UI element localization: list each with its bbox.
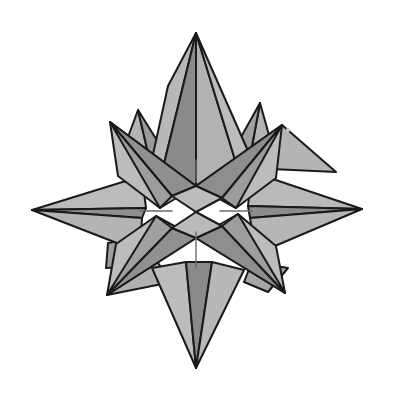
stellated-polyhedron-drawing [0, 0, 395, 401]
figure-canvas: Stellated polyhedron great stellated sta… [0, 0, 395, 401]
stray-speck [286, 128, 290, 132]
central-panels-group [172, 186, 222, 238]
bottom-spike-group [152, 262, 244, 368]
